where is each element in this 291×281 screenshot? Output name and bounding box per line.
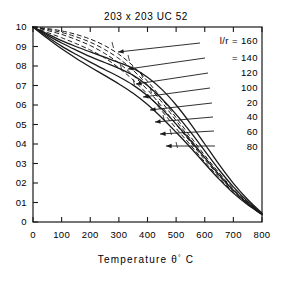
leader-arrowhead xyxy=(118,49,124,53)
curve-hatch-mark xyxy=(128,55,130,61)
leader-arrowhead xyxy=(160,132,166,136)
y-tick-label: 09 xyxy=(16,41,27,52)
x-tick-label: 600 xyxy=(196,229,213,240)
legend-label: = 140 xyxy=(232,52,258,63)
legend-label: 120 xyxy=(241,67,258,78)
y-tick-label: 06 xyxy=(16,99,27,110)
legend-leader-line xyxy=(160,131,214,134)
y-tick-label: 05 xyxy=(16,119,27,130)
legend-leader-line xyxy=(143,88,210,97)
y-tick-label: 08 xyxy=(16,60,27,71)
legend: l/r = 160= 14012010020406080 xyxy=(220,35,258,152)
data-curve xyxy=(33,27,262,215)
data-curves xyxy=(33,27,262,215)
x-tick-label: 0 xyxy=(30,229,36,240)
y-tick-label: 04 xyxy=(16,138,27,149)
legend-leader-line xyxy=(118,43,200,52)
y-tick-label: 0 xyxy=(21,216,27,227)
leader-arrowhead xyxy=(166,144,172,148)
y-tick-label: 10 xyxy=(16,21,27,32)
legend-leader-lines xyxy=(118,43,215,148)
chart-title: 203 x 203 UC 52 xyxy=(104,11,188,22)
legend-label: l/r = 160 xyxy=(220,35,258,46)
legend-label: 60 xyxy=(247,126,258,137)
plot-frame xyxy=(33,27,262,222)
curve-hatch-mark xyxy=(112,42,114,48)
x-axis-label: Temperature θ° C xyxy=(98,254,194,266)
x-tick-label: 700 xyxy=(225,229,242,240)
legend-leader-line xyxy=(128,58,205,69)
chart-canvas: 203 x 203 UC 52 001020304050607080910 01… xyxy=(0,0,291,281)
curve-hatch-mark xyxy=(170,129,172,135)
legend-label: 80 xyxy=(247,141,258,152)
chart-figure: 203 x 203 UC 52 001020304050607080910 01… xyxy=(0,0,291,281)
x-tick-label: 800 xyxy=(254,229,271,240)
legend-label: 100 xyxy=(241,82,258,93)
y-axis-ticks: 001020304050607080910 xyxy=(16,21,38,227)
curve-hatch-mark xyxy=(176,142,178,148)
y-tick-label: 03 xyxy=(16,158,27,169)
x-tick-label: 200 xyxy=(82,229,99,240)
x-tick-label: 400 xyxy=(139,229,156,240)
y-tick-label: 02 xyxy=(16,177,27,188)
legend-leader-line xyxy=(136,73,208,84)
legend-label: 20 xyxy=(247,97,258,108)
legend-label: 40 xyxy=(247,111,258,122)
x-tick-label: 100 xyxy=(53,229,70,240)
x-tick-label: 300 xyxy=(110,229,127,240)
y-tick-label: 07 xyxy=(16,80,27,91)
leader-arrowhead xyxy=(136,81,142,85)
x-tick-label: 500 xyxy=(168,229,185,240)
y-tick-label: 01 xyxy=(16,197,27,208)
